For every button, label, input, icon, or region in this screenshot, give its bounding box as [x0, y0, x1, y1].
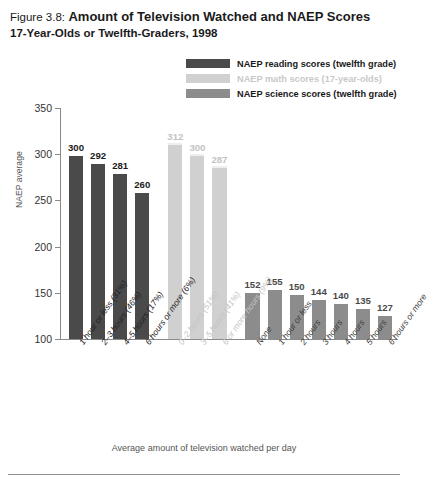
bar-value-label: 292 — [90, 150, 106, 161]
legend-label-science: NAEP science scores (twelfth grade) — [237, 89, 397, 99]
y-axis-tick-label: 300 — [34, 148, 52, 160]
bar-value-label: 260 — [134, 179, 150, 190]
bar-top-highlight — [168, 143, 182, 145]
bar-top-highlight — [69, 154, 83, 156]
bar-value-label: 312 — [167, 131, 183, 142]
chart-legend: NAEP reading scores (twelfth grade) NAEP… — [186, 57, 397, 100]
bar-value-label: 140 — [333, 290, 349, 301]
legend-item-science: NAEP science scores (twelfth grade) — [186, 87, 397, 100]
y-axis-tick-mark — [55, 247, 61, 248]
bar-top-highlight — [268, 288, 282, 290]
footer-divider — [8, 474, 400, 475]
y-axis-label: NAEP average — [14, 118, 24, 208]
figure-title-line: Figure 3.8: Amount of Television Watched… — [10, 9, 398, 25]
y-axis-tick-label: 150 — [34, 287, 52, 299]
y-axis-tick-label: 100 — [34, 333, 52, 345]
bar-value-label: 281 — [112, 160, 128, 171]
figure-subtitle: 17-Year-Olds or Twelfth-Graders, 1998 — [10, 26, 398, 41]
bar-top-highlight — [190, 154, 204, 156]
bar-fill — [69, 154, 83, 339]
bar-top-highlight — [334, 302, 348, 304]
bar-top-highlight — [312, 298, 326, 300]
bar-value-label: 300 — [189, 142, 205, 153]
figure-number: Figure 3.8: — [10, 11, 65, 23]
bar-top-highlight — [91, 162, 105, 164]
bar-value-label: 135 — [355, 295, 371, 306]
bar-top-highlight — [113, 172, 127, 174]
legend-swatch-science — [186, 89, 230, 98]
figure-header: Figure 3.8: Amount of Television Watched… — [0, 0, 408, 41]
bar-value-label: 300 — [68, 142, 84, 153]
bar-top-highlight — [290, 293, 304, 295]
y-axis-tick-label: 350 — [34, 102, 52, 114]
legend-label-reading: NAEP reading scores (twelfth grade) — [237, 59, 396, 69]
bar: 300 — [69, 154, 83, 339]
y-axis-tick-mark — [55, 293, 61, 294]
bar-top-highlight — [356, 307, 370, 309]
y-axis-tick-mark — [55, 154, 61, 155]
y-axis-tick-mark — [55, 108, 61, 109]
legend-item-reading: NAEP reading scores (twelfth grade) — [186, 57, 397, 70]
y-axis-tick-label: 250 — [34, 194, 52, 206]
legend-item-math: NAEP math scores (17-year-olds) — [186, 72, 397, 85]
bar-value-label: 127 — [377, 302, 393, 313]
legend-label-math: NAEP math scores (17-year-olds) — [237, 74, 382, 84]
legend-swatch-reading — [186, 59, 230, 68]
bar-value-label: 144 — [311, 286, 327, 297]
bar-value-label: 150 — [289, 281, 305, 292]
bar-top-highlight — [135, 191, 149, 193]
y-axis-tick-mark — [55, 200, 61, 201]
bar-top-highlight — [378, 314, 392, 316]
x-axis-label: Average amount of television watched per… — [0, 443, 408, 453]
y-axis-tick-mark — [55, 339, 61, 340]
bar-chart: NAEP average 100150200250300350 30029228… — [0, 108, 408, 358]
x-axis-category-labels: 1 hour or less (31%)2–3 hours (46%)4–5 h… — [61, 341, 398, 451]
legend-swatch-math — [186, 74, 230, 83]
bar-top-highlight — [212, 166, 226, 168]
page-title: Amount of Television Watched and NAEP Sc… — [68, 9, 370, 24]
y-axis-tick-label: 200 — [34, 241, 52, 253]
bar-value-label: 287 — [211, 154, 227, 165]
y-axis-ticks: 100150200250300350 — [26, 108, 52, 358]
